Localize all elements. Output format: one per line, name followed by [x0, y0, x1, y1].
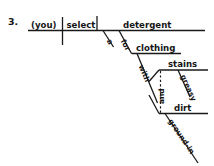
clothing-label: clothing [136, 43, 175, 53]
direct-object-label: detergent [123, 20, 171, 30]
verb-label: select [67, 20, 96, 30]
exercise-number: 3. [8, 16, 18, 27]
conjunction-and-label: and [157, 88, 166, 104]
dirt-label: dirt [174, 103, 191, 113]
subject-label: (you) [31, 20, 57, 30]
preposition-with-label: with [137, 63, 152, 83]
adjective-greasy-label: greasy [179, 73, 199, 103]
sentence-diagram-canvas: 3. (you) select detergent a for clothing… [0, 0, 214, 166]
article-a-label: a [105, 37, 115, 46]
sentence-diagram-container: 3. (you) select detergent a for clothing… [0, 0, 214, 166]
stains-label: stains [168, 59, 197, 69]
adjective-ground-in-label: ground-in [166, 117, 196, 156]
